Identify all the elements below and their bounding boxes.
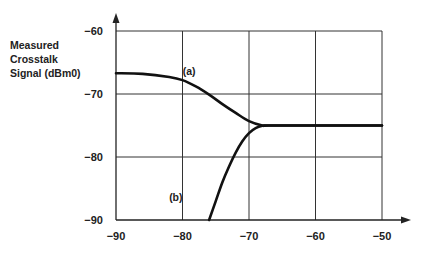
tick-labels: −90−80−70−60−50−60−70−80−90 bbox=[84, 25, 391, 242]
y-tick-label: −80 bbox=[84, 151, 103, 163]
x-tick-label: −50 bbox=[373, 230, 392, 242]
y-tick-label: −90 bbox=[84, 214, 103, 226]
y-tick-label: −60 bbox=[84, 25, 103, 37]
axes bbox=[113, 13, 412, 224]
crosstalk-chart: −90−80−70−60−50−60−70−80−90 (a)(b) bbox=[0, 0, 429, 264]
curve-label: (a) bbox=[183, 65, 196, 77]
x-tick-label: −70 bbox=[240, 230, 259, 242]
curve-b bbox=[209, 125, 382, 220]
x-tick-label: −80 bbox=[173, 230, 192, 242]
y-tick-label: −70 bbox=[84, 88, 103, 100]
x-tick-label: −60 bbox=[306, 230, 325, 242]
y-axis-arrow-icon bbox=[113, 13, 120, 23]
x-axis-arrow-icon bbox=[401, 217, 411, 224]
x-tick-label: −90 bbox=[107, 230, 126, 242]
curve-label: (b) bbox=[169, 191, 182, 203]
